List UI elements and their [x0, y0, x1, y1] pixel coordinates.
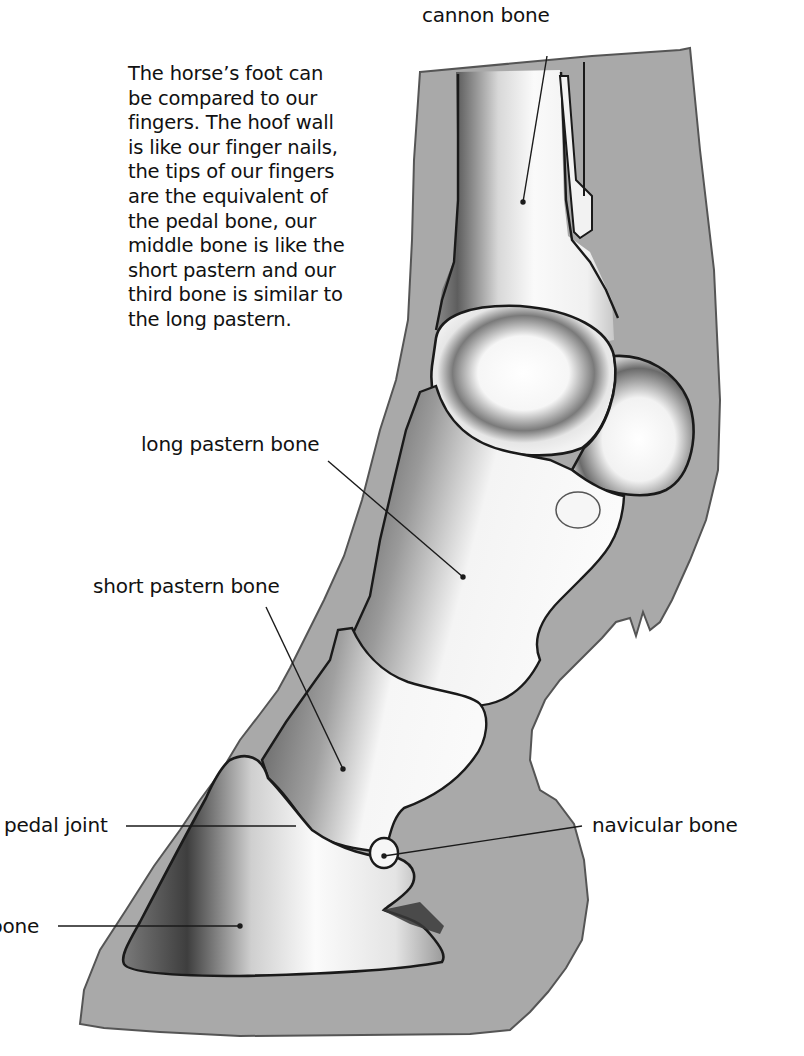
label-cannon-bone: cannon bone [422, 3, 550, 27]
caption-line: fingers. The hoof wall [128, 111, 398, 136]
caption-line: the pedal bone, our [128, 210, 398, 235]
label-pedal-joint: pedal joint [4, 813, 108, 837]
caption-line: be compared to our [128, 87, 398, 112]
label-long-pastern-bone: long pastern bone [141, 432, 319, 456]
caption-line: the tips of our fingers [128, 160, 398, 185]
caption-line: The horse’s foot can [128, 62, 398, 87]
caption-paragraph: The horse’s foot can be compared to our … [128, 62, 398, 333]
navicular-bone-shape [370, 838, 398, 868]
caption-line: third bone is similar to [128, 283, 398, 308]
caption-line: short pastern and our [128, 259, 398, 284]
caption-line: middle bone is like the [128, 234, 398, 259]
label-short-pastern-bone: short pastern bone [93, 574, 280, 598]
caption-line: is like our finger nails, [128, 136, 398, 161]
label-navicular-bone: navicular bone [592, 813, 738, 837]
caption-line: the long pastern. [128, 308, 398, 333]
long-pastern-tubercle [556, 492, 600, 528]
horse-foot-illustration [0, 0, 804, 1056]
caption-line: are the equivalent of [128, 185, 398, 210]
label-pedal-bone: bone [0, 914, 39, 938]
